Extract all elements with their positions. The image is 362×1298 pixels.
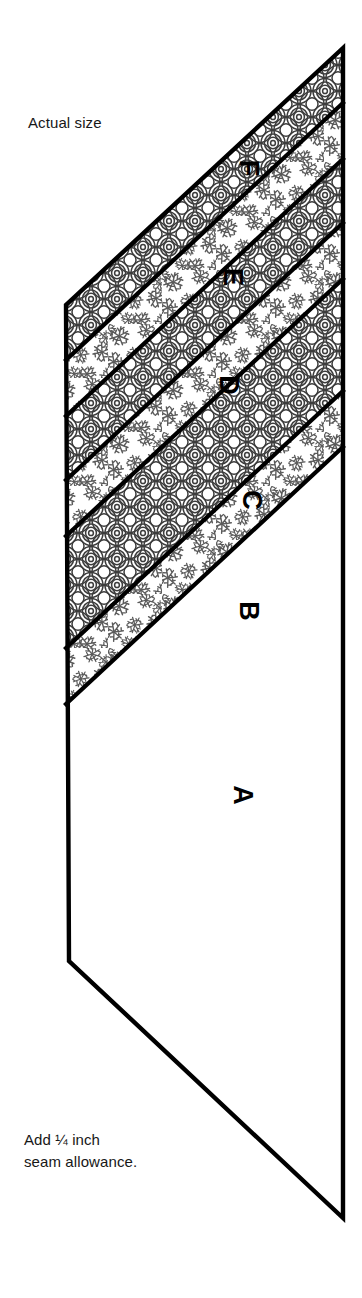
band-label-F: F bbox=[234, 160, 264, 177]
actual-size-caption: Actual size bbox=[28, 112, 102, 134]
seam-allowance-note: Add ¼ inch seam allowance. bbox=[24, 1129, 137, 1173]
band-label-C: C bbox=[237, 490, 267, 510]
pattern-page: F E D C B A Actual size Add ¼ inch seam … bbox=[0, 0, 362, 1298]
band-label-A: A bbox=[228, 785, 258, 805]
pattern-figure-svg: F E D C B A bbox=[0, 0, 362, 1298]
band-label-E: E bbox=[218, 268, 248, 286]
pattern-figure: F E D C B A bbox=[0, 0, 362, 1298]
band-label-B: B bbox=[234, 601, 264, 621]
band-label-D: D bbox=[214, 375, 244, 395]
